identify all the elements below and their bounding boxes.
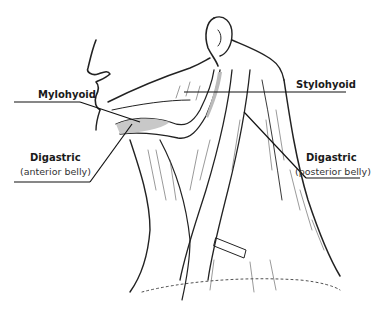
- label-digastric-posterior: Digastric: [306, 152, 357, 163]
- label-digastric-anterior: Digastric: [30, 152, 81, 163]
- anatomy-diagram: Mylohyoid Stylohyoid Digastric (anterior…: [0, 0, 379, 313]
- label-digastric-anterior-sub: (anterior belly): [20, 166, 91, 177]
- label-digastric-posterior-sub: (posterior belly): [295, 166, 371, 177]
- label-mylohyoid: Mylohyoid: [38, 89, 96, 100]
- label-stylohyoid: Stylohyoid: [296, 79, 356, 90]
